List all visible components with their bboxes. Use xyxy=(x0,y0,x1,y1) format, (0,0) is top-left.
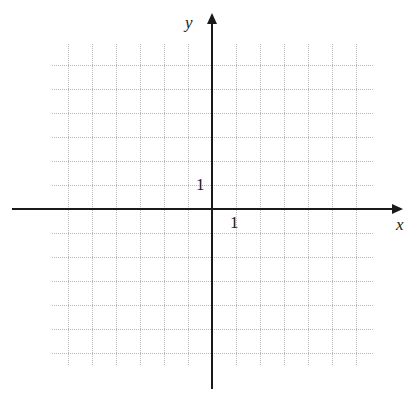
grid-line-vertical xyxy=(332,44,333,366)
grid-line-horizontal xyxy=(52,353,374,354)
grid-line-horizontal xyxy=(52,137,374,138)
grid-line-horizontal xyxy=(52,161,374,162)
grid-line-vertical xyxy=(92,44,93,366)
grid-line-vertical xyxy=(164,44,165,366)
grid-line-vertical xyxy=(116,44,117,366)
grid-line-vertical xyxy=(140,44,141,366)
grid-line-horizontal xyxy=(52,281,374,282)
grid-line-vertical xyxy=(236,44,237,366)
y-axis-label: y xyxy=(185,14,193,31)
grid-line-horizontal xyxy=(52,233,374,234)
dotted-grid xyxy=(52,44,374,366)
grid-line-horizontal xyxy=(52,65,374,66)
grid-line-horizontal xyxy=(52,257,374,258)
y-axis-arrowhead-icon xyxy=(207,13,217,24)
grid-line-horizontal xyxy=(52,305,374,306)
grid-line-horizontal xyxy=(52,185,374,186)
grid-line-horizontal xyxy=(52,89,374,90)
x-axis-arrowhead-icon xyxy=(392,204,403,214)
y-axis-tick-label-1: 1 xyxy=(196,176,205,193)
coordinate-grid-figure: y x 1 1 xyxy=(0,0,415,397)
grid-line-vertical xyxy=(308,44,309,366)
grid-line-vertical xyxy=(68,44,69,366)
x-axis-line xyxy=(12,208,392,210)
grid-line-vertical xyxy=(188,44,189,366)
grid-line-vertical xyxy=(260,44,261,366)
grid-line-horizontal xyxy=(52,113,374,114)
grid-line-vertical xyxy=(356,44,357,366)
x-axis-tick-label-1: 1 xyxy=(230,214,239,231)
grid-line-vertical xyxy=(284,44,285,366)
grid-line-horizontal xyxy=(52,329,374,330)
y-axis-line xyxy=(211,24,213,389)
x-axis-label: x xyxy=(396,216,404,233)
